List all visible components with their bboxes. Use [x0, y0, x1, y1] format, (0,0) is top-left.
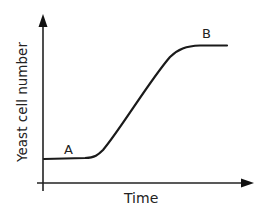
growth-curve-chart: A B Time Yeast cell number: [0, 0, 269, 213]
point-b-label: B: [202, 26, 211, 41]
y-axis-label: Yeast cell number: [14, 42, 30, 163]
chart-canvas: A B Time Yeast cell number: [0, 0, 269, 213]
x-axis-arrow-icon: [241, 179, 254, 188]
x-axis-label: Time: [123, 190, 158, 206]
point-a-label: A: [64, 142, 73, 157]
y-axis-arrow-icon: [39, 14, 48, 27]
